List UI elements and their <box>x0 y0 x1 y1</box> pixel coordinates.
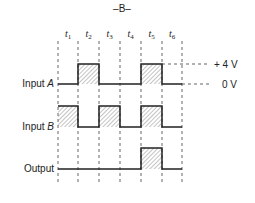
signal-high-pulse <box>58 106 78 127</box>
signal-high-pulse <box>78 64 99 84</box>
signal-high-pulse <box>141 64 162 84</box>
timing-diagram: –B– t1t2t3t4t5t6 + 4 V0 V Input AInput B… <box>0 0 255 203</box>
signal-high-pulse <box>141 106 162 127</box>
voltage-low-label: 0 V <box>222 79 237 90</box>
time-label-t6: t6 <box>169 28 176 41</box>
signal-high-pulse <box>99 106 120 127</box>
row-label-input-a: Input A <box>22 78 54 89</box>
voltage-high-label: + 4 V <box>214 59 238 70</box>
row-label-input-b: Input B <box>22 121 54 132</box>
row-label-output: Output <box>24 163 54 174</box>
time-label-t3: t3 <box>107 28 114 41</box>
time-label-t5: t5 <box>149 28 156 41</box>
figure-label: –B– <box>113 3 131 14</box>
time-label-t4: t4 <box>128 28 135 41</box>
time-label-t2: t2 <box>86 28 93 41</box>
time-label-t1: t1 <box>65 28 72 41</box>
signal-high-pulse <box>141 148 162 169</box>
